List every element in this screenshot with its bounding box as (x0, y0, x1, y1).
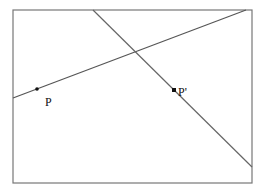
geometry-diagram: P P' (0, 0, 266, 194)
point-p-marker (35, 87, 39, 91)
line-through-p (13, 10, 246, 98)
point-p-prime-marker (172, 88, 176, 92)
point-p-label: P (45, 95, 52, 109)
point-p-prime-label: P' (178, 85, 187, 99)
